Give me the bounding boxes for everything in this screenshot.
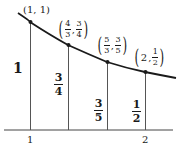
tick-label-2: 2 <box>142 135 148 145</box>
height-label-1: 1 <box>13 61 23 75</box>
point-label-2-1-2: ( 2 , 12 ) <box>133 47 166 67</box>
point-5-3 <box>106 60 110 64</box>
point-label-5-3: ( 53 , 35 ) <box>96 35 129 55</box>
point-label-1-1: (1, 1) <box>23 4 50 15</box>
tick-label-1: 1 <box>27 135 33 145</box>
height-label-3-5: 35 <box>94 98 103 123</box>
point-4-3 <box>67 43 71 47</box>
point-label-4-3: ( 43 , 34 ) <box>57 19 90 39</box>
point-2 <box>144 70 148 74</box>
height-label-3-4: 34 <box>54 72 63 97</box>
height-label-1-2: 12 <box>132 99 141 124</box>
point-1-1 <box>29 20 33 24</box>
